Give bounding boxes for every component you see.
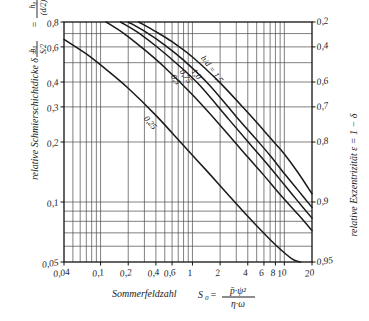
svg-text:relative Schmierschichtdicke: relative Schmierschichtdicke δ = <box>29 49 40 180</box>
x-axis-tick-labels: 0,040,10,20,40,6124681020 <box>53 262 316 279</box>
x-axis-title: SommerfeldzahlS0=p̄·ψ²η·ω <box>112 286 255 309</box>
svg-text:=: = <box>29 21 40 28</box>
svg-text:0,8: 0,8 <box>46 17 60 29</box>
svg-text:(d/2)ψ: (d/2)ψ <box>39 0 48 15</box>
svg-text:Sommerfeldzahl: Sommerfeldzahl <box>112 288 177 299</box>
secondary-y-axis-tick-labels: 0,20,40,60,70,80,90,95 <box>312 16 334 268</box>
svg-text:0,4: 0,4 <box>316 40 330 52</box>
svg-text:h₀: h₀ <box>28 1 37 8</box>
svg-text:h₀: h₀ <box>28 45 37 52</box>
svg-text:0: 0 <box>205 294 209 302</box>
chart-figure: 0,040,10,20,40,6124681020 0,80,60,40,30,… <box>0 0 369 321</box>
svg-text:0,04: 0,04 <box>53 267 71 280</box>
svg-text:20: 20 <box>304 267 315 278</box>
svg-text:0,6: 0,6 <box>46 42 60 54</box>
svg-text:=: = <box>210 289 217 300</box>
svg-text:0,1: 0,1 <box>46 197 59 209</box>
svg-text:0,4: 0,4 <box>46 77 60 89</box>
svg-text:η·ω: η·ω <box>231 299 245 309</box>
svg-text:0,2: 0,2 <box>119 267 133 279</box>
svg-text:relative Exzentrizität ε = 1: relative Exzentrizität ε = 1 − δ <box>348 113 359 236</box>
secondary-y-axis-title: relative Exzentrizität ε = 1 − δ <box>348 113 359 236</box>
curve-4 <box>106 22 312 230</box>
svg-text:4: 4 <box>242 268 249 279</box>
y-axis-tick-labels: 0,80,60,40,30,20,10,05 <box>41 17 64 270</box>
svg-text:0,8: 0,8 <box>316 136 330 148</box>
svg-text:0,95: 0,95 <box>316 255 334 268</box>
svg-text:S/2: S/2 <box>39 44 48 54</box>
y-axis-title: relative Schmierschichtdicke δ ==h₀S/2h₀… <box>28 0 48 180</box>
svg-text:10: 10 <box>276 267 287 278</box>
svg-text:8: 8 <box>270 268 277 279</box>
svg-text:0,9: 0,9 <box>316 196 330 208</box>
svg-text:0,6: 0,6 <box>163 267 177 279</box>
svg-text:1: 1 <box>187 268 193 279</box>
svg-text:0,3: 0,3 <box>46 102 60 114</box>
curve-label-1: b/d = 1,5 <box>199 53 226 84</box>
svg-text:6: 6 <box>258 268 265 279</box>
svg-text:0,4: 0,4 <box>147 267 161 279</box>
svg-text:S: S <box>198 289 203 300</box>
svg-text:0,1: 0,1 <box>91 267 104 279</box>
svg-text:0,2: 0,2 <box>46 137 60 149</box>
sommerfeld-diagram: 0,040,10,20,40,6124681020 0,80,60,40,30,… <box>0 0 369 321</box>
svg-text:2: 2 <box>215 268 222 279</box>
svg-text:0,7: 0,7 <box>316 100 331 112</box>
svg-text:p̄·ψ²: p̄·ψ² <box>229 286 246 296</box>
svg-text:0,2: 0,2 <box>316 16 330 28</box>
svg-text:0,6: 0,6 <box>316 76 330 88</box>
